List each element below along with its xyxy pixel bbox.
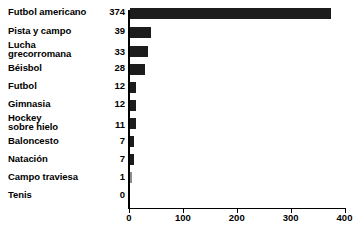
category-label: Lucha grecorromana [8,41,102,58]
category-label: Hockey sobre hielo [8,114,102,131]
bar [130,118,136,129]
axis-tick-label: 0 [109,212,149,223]
table-row: Lucha grecorromana33 [0,42,352,58]
table-row: Tenis0 [0,189,352,205]
bar [130,154,134,165]
value-label: 7 [92,137,125,146]
value-label: 0 [92,191,125,200]
category-label: Tenis [8,191,102,200]
category-label: Baloncesto [8,137,102,146]
category-label: Natación [8,155,102,164]
category-label: Pista y campo [8,27,102,36]
value-label: 7 [92,155,125,164]
category-label: Campo traviesa [8,173,102,182]
axis-tick-label: 100 [163,212,203,223]
chart-rows: Futbol americano374Pista y campo39Lucha … [0,10,352,208]
x-axis-tick-labels: 0100200300400 [0,212,352,226]
bar [130,100,136,111]
value-label: 39 [92,27,125,36]
bar [130,136,134,147]
table-row: Baloncesto7 [0,137,352,153]
table-row: Béisbol28 [0,64,352,80]
value-label: 12 [92,82,125,91]
axis-tick-label: 300 [271,212,311,223]
bar [130,46,148,57]
y-axis-line [128,10,130,209]
bar [130,172,132,183]
axis-tick-label: 200 [217,212,257,223]
value-label: 12 [92,100,125,109]
value-label: 33 [92,48,125,57]
bar [130,82,136,93]
value-label: 28 [92,64,125,73]
category-label: Futbol americano [8,8,102,17]
table-row: Futbol americano374 [0,8,352,24]
category-label: Béisbol [8,64,102,73]
table-row: Natación7 [0,153,352,169]
table-row: Campo traviesa1 [0,172,352,188]
axis-tick-label: 400 [325,212,357,223]
category-label: Futbol [8,82,102,91]
bar [130,27,151,38]
table-row: Hockey sobre hielo11 [0,117,352,133]
category-label: Gimnasia [8,100,102,109]
bar [130,8,331,19]
table-row: Futbol12 [0,81,352,97]
value-label: 1 [92,173,125,182]
table-row: Pista y campo39 [0,26,352,42]
bar [130,64,145,75]
value-label: 374 [92,8,125,17]
value-label: 11 [92,121,125,130]
